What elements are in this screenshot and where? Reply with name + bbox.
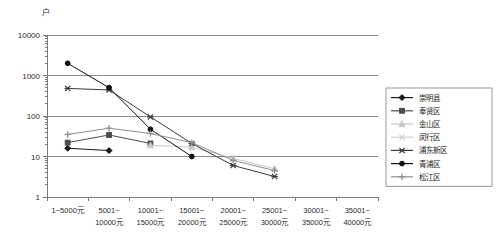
legend-label: 松江区: [419, 172, 441, 182]
series-1: [65, 133, 153, 146]
data-point-asterisk-marker: [230, 163, 236, 168]
x-axis-ticks: [47, 197, 378, 201]
chart-svg: 100001000100101 1~5000元5001~10000元10001~…: [0, 0, 496, 252]
series-line: [68, 148, 109, 150]
data-point-circle-marker: [400, 161, 405, 166]
y-tick-label: 1000: [22, 72, 40, 81]
x-tick-label: 25000元: [219, 218, 248, 227]
x-tick-label: 5001~: [99, 206, 121, 215]
x-tick-label: 35000元: [302, 218, 331, 227]
series-layer: [64, 61, 277, 179]
x-tick-label: 1~5000元: [52, 206, 85, 215]
x-tick-label: 15000元: [137, 218, 166, 227]
data-point-plus-marker: [64, 131, 70, 137]
legend-label: 奉贤区: [419, 106, 441, 116]
data-point-diamond-marker: [65, 145, 71, 151]
series-line: [68, 63, 192, 156]
legend-label: 闵行区: [419, 132, 441, 142]
y-axis-tick-labels: 100001000100101: [18, 31, 41, 202]
x-tick-label: 30000元: [261, 218, 290, 227]
data-point-asterisk-marker: [64, 86, 70, 91]
series-4: [64, 86, 277, 179]
chart-legend: 崇明县奉贤区金山区闵行区浦东新区青浦区松江区: [386, 88, 492, 186]
legend-label: 浦东新区: [419, 145, 448, 155]
gridlines: [47, 35, 378, 157]
x-tick-label: 30001~: [303, 206, 329, 215]
data-point-square-marker: [400, 108, 405, 113]
x-tick-label: 20001~: [221, 206, 247, 215]
data-point-square-marker: [107, 133, 112, 138]
legend-label: 青浦区: [419, 159, 441, 169]
x-tick-label: 10001~: [138, 206, 164, 215]
y-tick-label: 10000: [18, 31, 41, 40]
data-point-asterisk-marker: [147, 114, 153, 119]
series-0: [65, 145, 112, 153]
data-point-circle-marker: [189, 154, 194, 159]
data-point-circle-marker: [65, 61, 70, 66]
y-axis-ticks: [43, 35, 47, 197]
x-axis-tick-labels: 1~5000元5001~10000元10001~15000元15001~2000…: [52, 206, 373, 227]
x-tick-label: 20000元: [178, 218, 207, 227]
data-point-diamond-marker: [106, 148, 112, 154]
data-point-plus-marker: [106, 125, 112, 131]
line-chart: 100001000100101 1~5000元5001~10000元10001~…: [0, 0, 496, 252]
y-tick-label: 10: [31, 153, 40, 162]
x-tick-label: 15001~: [179, 206, 205, 215]
x-tick-label: 40000元: [343, 218, 372, 227]
x-tick-label: 25001~: [262, 206, 288, 215]
y-tick-label: 1: [36, 193, 41, 202]
x-tick-label: 35001~: [345, 206, 371, 215]
y-axis-title: 户: [42, 7, 50, 17]
legend-label: 崇明县: [419, 94, 441, 103]
data-point-circle-marker: [107, 85, 112, 90]
y-tick-label: 100: [27, 112, 41, 121]
data-point-square-marker: [65, 140, 70, 145]
data-point-asterisk-marker: [271, 174, 277, 179]
series-line: [68, 128, 275, 170]
x-tick-label: 10000元: [95, 218, 124, 227]
legend-label: 金山区: [419, 119, 441, 129]
